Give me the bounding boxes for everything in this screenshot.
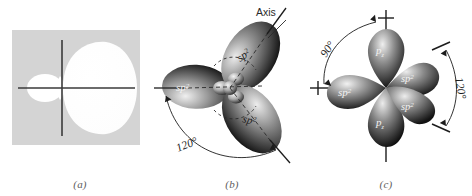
angle-arrowhead-90-start xyxy=(324,79,331,86)
axis-tick-upper-right xyxy=(432,42,450,50)
angle-arrowhead-120-end xyxy=(440,120,446,126)
angle-arrowhead-120-start xyxy=(441,50,447,56)
panel-c: pz pz sp2 sp2 sp2 90° 120° (c) xyxy=(300,0,472,196)
panel-b: sp2 sp2 sp2 Axis 120° (b) xyxy=(152,0,312,196)
panel-a-graphic xyxy=(0,0,160,170)
angle-label-90: 90° xyxy=(318,39,337,59)
axis-label: Axis xyxy=(256,6,276,18)
panel-a: (a) xyxy=(0,0,160,196)
panel-b-graphic: sp2 sp2 sp2 Axis 120° xyxy=(152,0,312,170)
panel-a-caption: (a) xyxy=(0,178,160,190)
panel-c-caption: (c) xyxy=(300,178,472,190)
angle-arrowhead-90-end xyxy=(370,15,376,22)
panel-b-caption: (b) xyxy=(152,178,312,190)
orbital-figure: (a) xyxy=(0,0,472,196)
axis-tick-lower-right xyxy=(432,124,450,132)
angle-label-120: 120° xyxy=(174,134,199,153)
angle-label-120: 120° xyxy=(453,76,469,100)
panel-c-graphic: pz pz sp2 sp2 sp2 90° 120° xyxy=(300,0,472,170)
